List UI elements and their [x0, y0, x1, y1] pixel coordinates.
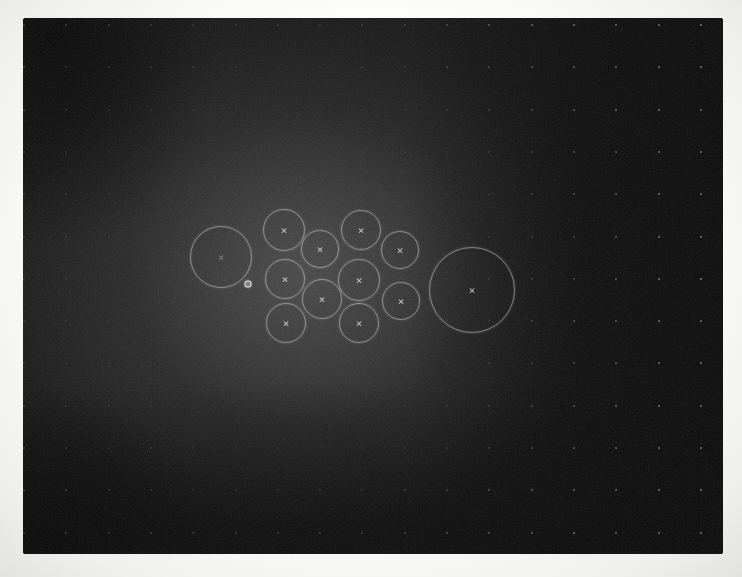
- center-x-marker: ×: [317, 244, 324, 255]
- center-x-marker: ×: [282, 274, 289, 285]
- center-x-marker: ×: [358, 225, 365, 236]
- center-x-marker: ×: [356, 275, 363, 286]
- center-x-marker: ×: [469, 285, 476, 296]
- center-x-marker: ×: [398, 296, 405, 307]
- circle-small-1[interactable]: ×: [263, 209, 305, 251]
- circle-large-right[interactable]: ×: [429, 247, 515, 333]
- center-x-marker: ×: [283, 318, 290, 329]
- circle-small-4[interactable]: ×: [381, 231, 419, 269]
- center-x-marker: ×: [319, 294, 326, 305]
- circle-large-left[interactable]: ×: [190, 226, 252, 288]
- circle-small-2[interactable]: ×: [341, 210, 381, 250]
- circle-small-8[interactable]: ×: [382, 282, 420, 320]
- crt-photo-frame: ××××××××××××: [0, 0, 742, 577]
- circle-small-5[interactable]: ×: [265, 259, 305, 299]
- center-x-marker: ×: [218, 252, 225, 263]
- circle-small-3[interactable]: ×: [301, 230, 339, 268]
- circle-small-6[interactable]: ×: [338, 259, 380, 301]
- crt-screen-canvas[interactable]: ××××××××××××: [23, 18, 723, 554]
- center-x-marker: ×: [281, 225, 288, 236]
- circle-small-10[interactable]: ×: [339, 303, 379, 343]
- circle-small-9[interactable]: ×: [266, 303, 306, 343]
- point-marker[interactable]: [245, 281, 252, 288]
- center-x-marker: ×: [356, 318, 363, 329]
- center-x-marker: ×: [397, 245, 404, 256]
- circle-small-7[interactable]: ×: [302, 279, 342, 319]
- drawing-object-layer: ××××××××××××: [23, 18, 723, 554]
